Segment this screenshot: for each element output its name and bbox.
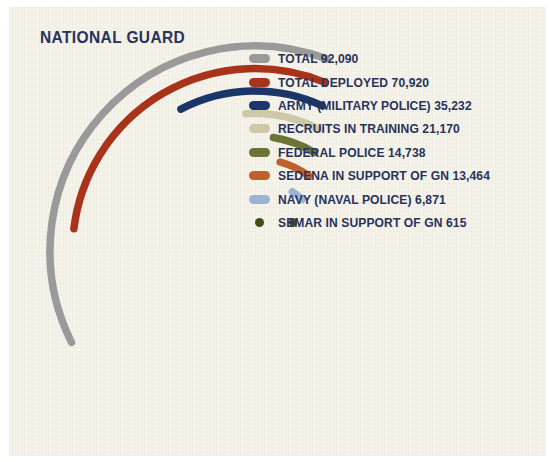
legend-item-army-military-police: ARMY (MILITARY POLICE) 35,232 — [249, 94, 506, 117]
chart-legend: TOTAL 92,090 TOTAL DEPLOYED 70,920 ARMY … — [249, 47, 506, 234]
legend-label-sedena-in-support: SEDENA IN SUPPORT OF GN 13,464 — [278, 169, 490, 182]
legend-swatch-federal-police — [249, 148, 270, 157]
legend-item-recruits-in-training: RECRUITS IN TRAINING 21,170 — [249, 117, 506, 140]
legend-item-sedena-in-support: SEDENA IN SUPPORT OF GN 13,464 — [249, 164, 506, 187]
legend-swatch-sedena-in-support — [249, 171, 270, 180]
legend-label-semar-in-support: SEMAR IN SUPPORT OF GN 615 — [278, 216, 467, 229]
legend-item-federal-police: FEDERAL POLICE 14,738 — [249, 141, 506, 164]
page-title: NATIONAL GUARD — [40, 28, 185, 47]
legend-label-federal-police: FEDERAL POLICE 14,738 — [278, 146, 426, 159]
legend-label-navy-naval-police: NAVY (NAVAL POLICE) 6,871 — [278, 193, 446, 206]
legend-item-navy-naval-police: NAVY (NAVAL POLICE) 6,871 — [249, 187, 506, 210]
infographic-root: NATIONAL GUARD TOTAL 92,090 TOTAL DEPLOY… — [0, 0, 554, 462]
legend-swatch-recruits-in-training — [249, 124, 270, 133]
legend-swatch-total — [249, 54, 270, 63]
legend-label-recruits-in-training: RECRUITS IN TRAINING 21,170 — [278, 122, 460, 135]
legend-item-total-deployed: TOTAL DEPLOYED 70,920 — [249, 70, 506, 93]
legend-swatch-army-military-police — [249, 101, 270, 110]
chart-panel: NATIONAL GUARD TOTAL 92,090 TOTAL DEPLOY… — [9, 7, 546, 456]
legend-swatch-navy-naval-police — [249, 195, 270, 204]
legend-label-total: TOTAL 92,090 — [278, 52, 358, 65]
legend-item-semar-in-support: SEMAR IN SUPPORT OF GN 615 — [249, 211, 506, 234]
legend-label-army-military-police: ARMY (MILITARY POLICE) 35,232 — [278, 99, 472, 112]
legend-item-total: TOTAL 92,090 — [249, 47, 506, 70]
legend-swatch-total-deployed — [249, 78, 270, 87]
legend-swatch-semar-in-support — [255, 218, 264, 227]
legend-label-total-deployed: TOTAL DEPLOYED 70,920 — [278, 76, 429, 89]
